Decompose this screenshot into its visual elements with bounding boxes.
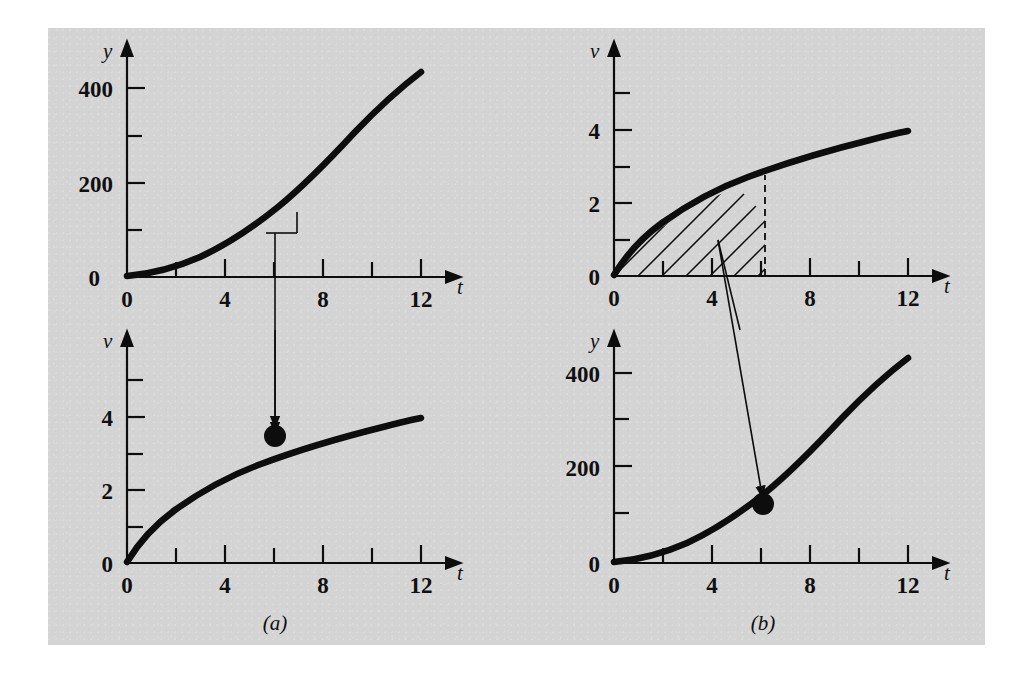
x-axis-name: t — [944, 274, 951, 298]
panel-bottom-left: v t 0 2 4 0 4 8 12 (a) — [102, 329, 465, 635]
x-ticklabel-0: 0 — [608, 286, 620, 311]
y-ticklabel-0: 0 — [102, 552, 114, 577]
x-ticklabel-12: 12 — [410, 573, 433, 598]
x-ticklabel-4: 4 — [219, 287, 231, 312]
x-ticklabel-4: 4 — [706, 286, 718, 311]
panel-top-left: y t 0 200 400 0 4 8 12 — [79, 39, 465, 419]
y-ticklabel-0: 0 — [89, 266, 101, 291]
figure-root: y t 0 200 400 0 4 8 12 — [0, 0, 1026, 680]
panel-top-right: v t 0 2 4 0 4 8 12 — [566, 39, 951, 444]
y-axis-name: y — [101, 39, 113, 63]
x-ticklabel-0: 0 — [121, 573, 133, 598]
subcaption-a: (a) — [263, 611, 288, 635]
x-ticklabel-8: 8 — [804, 286, 816, 311]
y-axis-name: y — [588, 329, 600, 353]
y-ticklabel-0: 0 — [589, 265, 601, 290]
y-ticklabel-2: 2 — [589, 192, 601, 217]
x-ticklabel-12: 12 — [410, 287, 433, 312]
x-ticklabel-8: 8 — [804, 573, 816, 598]
area-leader-line — [718, 240, 740, 330]
panel-bottom-right: y t 0 200 400 0 4 8 12 (b) — [566, 240, 952, 635]
x-axis-name: t — [457, 561, 464, 585]
incoming-arrow — [718, 240, 761, 489]
y-ticklabel-400: 400 — [566, 362, 601, 387]
y-ticklabel-200: 200 — [566, 456, 601, 481]
position-curve — [127, 72, 421, 276]
y-ticklabel-4: 4 — [102, 406, 114, 431]
marked-point — [752, 493, 774, 515]
velocity-curve — [614, 131, 908, 275]
y-ticklabel-4: 4 — [589, 119, 601, 144]
y-ticklabel-400: 400 — [79, 77, 114, 102]
x-ticklabel-4: 4 — [219, 573, 231, 598]
y-axis-name: v — [103, 329, 113, 353]
y-ticklabel-200: 200 — [79, 172, 114, 197]
x-ticklabel-8: 8 — [317, 573, 329, 598]
x-ticklabel-8: 8 — [317, 287, 329, 312]
y-ticklabel-0: 0 — [589, 552, 601, 577]
x-axis-name: t — [457, 275, 464, 299]
x-ticklabel-0: 0 — [121, 287, 133, 312]
subcaption-b: (b) — [751, 611, 776, 635]
x-ticklabel-12: 12 — [897, 573, 920, 598]
position-curve — [614, 358, 908, 562]
charts-svg: y t 0 200 400 0 4 8 12 — [0, 0, 1026, 680]
x-ticklabel-12: 12 — [897, 286, 920, 311]
marked-point — [264, 425, 286, 447]
x-ticklabel-0: 0 — [608, 573, 620, 598]
y-axis-name: v — [590, 39, 600, 63]
x-axis-name: t — [944, 561, 951, 585]
x-ticklabel-4: 4 — [706, 573, 718, 598]
y-ticklabel-2: 2 — [102, 479, 114, 504]
